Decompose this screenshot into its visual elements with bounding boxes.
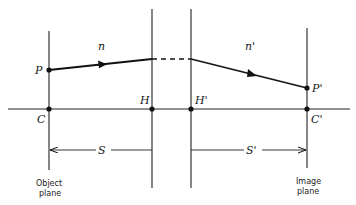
label-n-prime: n' — [245, 40, 255, 53]
label-h-prime: H' — [194, 94, 208, 107]
caption-image-plane-line1: Image — [296, 177, 321, 186]
label-n: n — [98, 40, 105, 53]
ray-direction-arrow-object — [98, 61, 107, 69]
label-c-prime: C' — [311, 113, 322, 126]
point-h — [149, 106, 154, 111]
label-s-prime: S' — [246, 144, 257, 157]
point-h-prime — [188, 106, 193, 111]
label-s: S — [98, 144, 106, 157]
optics-diagram: n n' P P' H H' C C' S S' Object plane Im… — [0, 0, 356, 205]
caption-object-plane-line1: Object — [36, 179, 62, 188]
caption-image-plane-line2: plane — [297, 187, 319, 196]
label-h: H — [139, 94, 150, 107]
caption-object-plane-line2: plane — [39, 189, 61, 198]
point-c-prime — [304, 106, 309, 111]
ray-direction-arrow-image — [247, 69, 257, 77]
point-p-prime — [304, 85, 309, 90]
point-p — [46, 67, 51, 72]
diagram-canvas: n n' P P' H H' C C' S S' Object plane Im… — [0, 0, 356, 205]
point-c — [46, 106, 51, 111]
label-c: C — [37, 113, 46, 126]
label-p: P — [34, 64, 43, 77]
label-p-prime: P' — [311, 82, 322, 95]
